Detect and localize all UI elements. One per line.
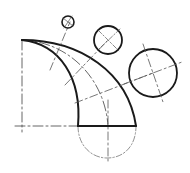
- drawing-svg: [0, 0, 190, 173]
- inner-profile-curve: [22, 40, 78, 126]
- base-hidden-arc: [78, 126, 136, 158]
- medium-section-cross-b: [98, 29, 120, 50]
- medium-section-cross-a: [98, 30, 120, 52]
- medium-section: [94, 26, 122, 54]
- small-section: [62, 16, 74, 28]
- small-section-cross-b: [64, 16, 72, 28]
- technical-drawing-canvas: [0, 0, 190, 173]
- curved-axis-centerline: [22, 40, 108, 126]
